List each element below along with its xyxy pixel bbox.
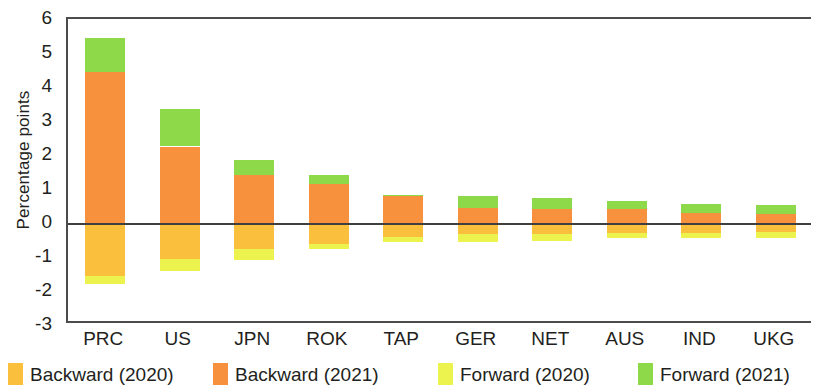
bar-segment (383, 195, 423, 196)
bar-segment (234, 160, 274, 175)
bar-segment (756, 205, 796, 215)
bar-segment (607, 201, 647, 208)
bar-segment (234, 249, 274, 260)
bar-segment (532, 198, 572, 209)
bar-segment (160, 259, 200, 271)
bar-segment (85, 38, 125, 72)
legend-item: Backward (2021) (213, 360, 379, 388)
y-tick-label: 4 (0, 76, 52, 95)
x-axis-tick-labels: PRCUSJPNROKTAPGERNETAUSINDUKG (66, 326, 811, 354)
bar-segment (607, 233, 647, 238)
bar-segment (607, 209, 647, 223)
bar-segment (383, 196, 423, 223)
bar-segment (458, 234, 498, 242)
y-tick-label: 3 (0, 110, 52, 129)
bar-group (160, 19, 200, 321)
y-tick-label: 2 (0, 144, 52, 163)
x-tick-label: UKG (724, 326, 817, 352)
bar-group (383, 19, 423, 321)
legend-label: Forward (2020) (460, 365, 590, 384)
bar-group (234, 19, 274, 321)
bar-segment (756, 232, 796, 238)
bar-segment (532, 209, 572, 223)
bar-segment (756, 214, 796, 223)
y-axis-tick-labels: 6543210-1-2-3 (0, 0, 60, 391)
bar-group (85, 19, 125, 321)
bar-segment (681, 213, 721, 223)
bar-segment (458, 208, 498, 223)
bar-segment (234, 223, 274, 249)
bar-segment (681, 204, 721, 213)
legend-swatch (8, 363, 23, 385)
legend-swatch (638, 363, 653, 385)
bar-segment (309, 175, 349, 184)
legend-item: Forward (2021) (638, 360, 790, 388)
bar-segment (85, 276, 125, 285)
bar-segment (458, 196, 498, 208)
bar-segment (160, 109, 200, 146)
legend-swatch (213, 363, 228, 385)
chart-figure: Percentage points 6543210-1-2-3 PRCUSJPN… (0, 0, 817, 391)
legend-item: Forward (2020) (438, 360, 590, 388)
bar-group (607, 19, 647, 321)
bar-segment (309, 223, 349, 244)
plot-area (66, 17, 811, 323)
bar-group (681, 19, 721, 321)
bar-segment (234, 175, 274, 223)
bar-segment (160, 223, 200, 259)
bar-group (532, 19, 572, 321)
y-tick-label: 6 (0, 8, 52, 27)
bar-segment (383, 237, 423, 242)
bar-segment (160, 147, 200, 224)
y-tick-label: 0 (0, 212, 52, 231)
legend-label: Forward (2021) (660, 365, 790, 384)
bar-group (458, 19, 498, 321)
y-tick-label: 1 (0, 178, 52, 197)
bar-group (309, 19, 349, 321)
bar-segment (532, 234, 572, 241)
chart-legend: Backward (2020)Backward (2021)Forward (2… (0, 360, 817, 391)
y-tick-label: -1 (0, 246, 52, 265)
legend-label: Backward (2021) (235, 365, 379, 384)
legend-label: Backward (2020) (30, 365, 174, 384)
y-tick-label: 5 (0, 42, 52, 61)
y-tick-label: -2 (0, 280, 52, 299)
bar-segment (681, 233, 721, 238)
bar-segment (309, 244, 349, 249)
bar-segment (309, 184, 349, 223)
legend-item: Backward (2020) (8, 360, 174, 388)
legend-swatch (438, 363, 453, 385)
zero-baseline (68, 223, 811, 225)
y-tick-label: -3 (0, 314, 52, 333)
bar-group (756, 19, 796, 321)
bar-segment (85, 223, 125, 276)
bar-segment (383, 223, 423, 237)
bar-segment (85, 72, 125, 223)
